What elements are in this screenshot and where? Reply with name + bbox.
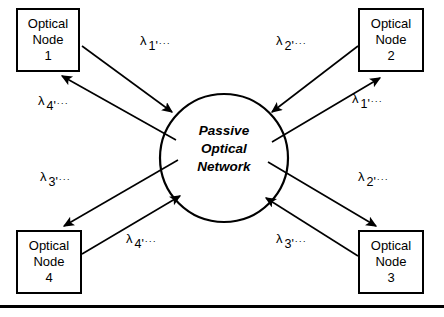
lambda-subscript: 1' [361,97,370,111]
optical-network-diagram: Optical Node 1 Optical Node 2 Optical No… [0,0,444,317]
node-2-line1: Optical [371,16,411,32]
node-1-line2: Node [32,32,63,48]
node-3-line2: Node [375,254,406,270]
wavelength-label-node-2-to-hub: λ2'··· [276,36,306,51]
lambda-subscript: 2' [285,39,294,53]
passive-optical-network-circle [160,94,288,222]
lambda-subscript: 4' [47,99,56,113]
wavelength-label-hub-to-node-1: λ4'··· [38,96,68,111]
wavelength-label-hub-to-node-4: λ3'··· [40,172,70,187]
node-4-line3: 4 [45,270,52,286]
arrow-node-2-to-hub [272,46,358,112]
lambda-subscript: 1' [149,39,158,53]
node-3-line3: 3 [387,270,394,286]
node-2-line2: Node [375,32,406,48]
wavelength-label-node-4-to-hub: λ4'··· [126,234,156,249]
lambda-subscript: 4' [135,237,144,251]
lambda-symbol: λ [40,169,47,184]
node-4-line1: Optical [29,238,69,254]
lambda-symbol: λ [358,169,365,184]
ellipsis: ··· [57,98,69,108]
lambda-subscript: 2' [367,175,376,189]
ellipsis: ··· [371,96,383,106]
arrow-hub-to-node-1 [62,76,176,140]
lambda-symbol: λ [126,231,133,246]
arrow-node-1-to-hub [82,46,172,112]
node-1-line3: 1 [44,48,51,64]
ellipsis: ··· [377,174,389,184]
node-2-line3: 2 [387,48,394,64]
optical-node-3-box: Optical Node 3 [358,230,424,294]
lambda-symbol: λ [352,91,359,106]
lambda-symbol: λ [276,33,283,48]
ellipsis: ··· [295,236,307,246]
lambda-symbol: λ [38,93,45,108]
optical-node-1-box: Optical Node 1 [16,8,80,72]
ellipsis: ··· [295,38,307,48]
lambda-symbol: λ [276,231,283,246]
lambda-subscript: 3' [49,175,58,189]
lambda-symbol: λ [140,33,147,48]
arrow-hub-to-node-4 [64,160,178,226]
wavelength-label-hub-to-node-3: λ2'··· [358,172,388,187]
node-3-line1: Optical [371,238,411,254]
lambda-subscript: 3' [285,237,294,251]
wavelength-label-node-3-to-hub: λ3'··· [276,234,306,249]
ellipsis: ··· [59,174,71,184]
wavelength-label-node-1-to-hub: λ1'··· [140,36,170,51]
node-1-line1: Optical [28,16,68,32]
ellipsis: ··· [159,38,171,48]
ellipsis: ··· [145,236,157,246]
node-4-line2: Node [33,254,64,270]
optical-node-2-box: Optical Node 2 [358,8,424,72]
wavelength-label-hub-to-node-2: λ1'··· [352,94,382,109]
optical-node-4-box: Optical Node 4 [16,230,82,294]
